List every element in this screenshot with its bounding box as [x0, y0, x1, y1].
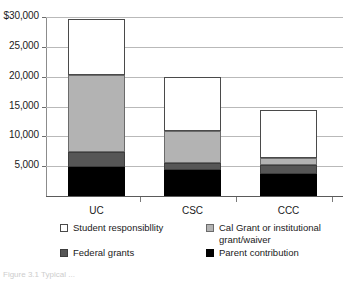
y-tick-label-5000: 5,000 [14, 159, 39, 171]
tick-mark-10000 [42, 136, 46, 137]
bar-segment-csc-parent-contribution[interactable] [164, 170, 221, 196]
bar-segment-csc-student-responsibility[interactable] [164, 77, 221, 131]
bar-segment-ccc-student-responsibility[interactable] [260, 110, 317, 158]
x-axis-tick-1 [140, 197, 141, 202]
x-category-label-uc: UC [68, 205, 125, 217]
dark-gray-square-swatch-icon [60, 249, 68, 257]
bar-segment-csc-federal-grants[interactable] [164, 163, 221, 170]
bar-segment-ccc-federal-grants[interactable] [260, 165, 317, 174]
tick-mark-30000 [42, 17, 46, 18]
y-tick-label-25000: 25,000 [9, 40, 39, 52]
y-tick-label-30000: $30,000 [4, 10, 39, 22]
bar-group-csc[interactable] [164, 17, 221, 196]
y-tick-label-20000: 20,000 [9, 70, 39, 82]
bar-group-ccc[interactable] [260, 17, 317, 196]
bar-segment-uc-federal-grants[interactable] [68, 152, 125, 167]
plot-area: $30,000 25,000 20,000 15,000 10,000 5,00… [46, 17, 343, 196]
chart-legend: Student responsibllity Cal Grant or inst… [60, 222, 345, 264]
x-category-label-ccc: CCC [260, 205, 317, 217]
bar-segment-uc-cal-grant[interactable] [68, 75, 125, 152]
tick-mark-25000 [42, 47, 46, 48]
bar-segment-csc-cal-grant[interactable] [164, 131, 221, 163]
legend-item-parent-contribution[interactable]: Parent contribution [206, 247, 299, 259]
black-square-swatch-icon [206, 249, 214, 257]
y-tick-label-10000: 10,000 [9, 129, 39, 141]
legend-label-parent-contribution: Parent contribution [219, 247, 299, 259]
legend-label-federal-grants: Federal grants [73, 247, 134, 259]
x-axis-tick-3 [332, 197, 333, 202]
bar-segment-uc-student-responsibility[interactable] [68, 19, 125, 75]
white-square-swatch-icon [60, 224, 68, 232]
figure-caption: Figure 3.1 Typical ... [3, 270, 75, 280]
y-tick-label-15000: 15,000 [9, 100, 39, 112]
legend-label-cal-grant: Cal Grant or institutional grant/waiver [219, 222, 321, 245]
x-axis-tick-2 [236, 197, 237, 202]
bar-segment-ccc-parent-contribution[interactable] [260, 174, 317, 196]
x-category-label-csc: CSC [164, 205, 221, 217]
tick-mark-5000 [42, 166, 46, 167]
legend-item-student-responsibility[interactable]: Student responsibllity [60, 222, 163, 234]
legend-item-federal-grants[interactable]: Federal grants [60, 247, 134, 259]
bar-segment-uc-parent-contribution[interactable] [68, 167, 125, 196]
tick-mark-20000 [42, 77, 46, 78]
light-gray-square-swatch-icon [206, 224, 214, 232]
legend-item-cal-grant[interactable]: Cal Grant or institutional grant/waiver [206, 222, 321, 245]
tick-mark-15000 [42, 107, 46, 108]
bar-group-uc[interactable] [68, 17, 125, 196]
x-axis-line [46, 196, 343, 197]
legend-label-student-responsibility: Student responsibllity [73, 222, 163, 234]
stacked-bar-chart-figure: $30,000 25,000 20,000 15,000 10,000 5,00… [0, 0, 351, 281]
